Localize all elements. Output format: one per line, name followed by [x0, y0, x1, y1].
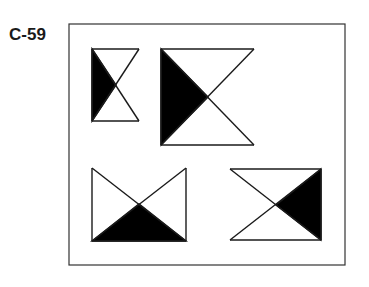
diagram-canvas	[0, 0, 369, 287]
figure-1-small-hourglass	[92, 49, 139, 121]
figure-4-hourglass-right	[230, 169, 321, 240]
figure-3-bowtie-bottom	[92, 168, 186, 241]
figure-2-large-hourglass	[161, 49, 254, 145]
